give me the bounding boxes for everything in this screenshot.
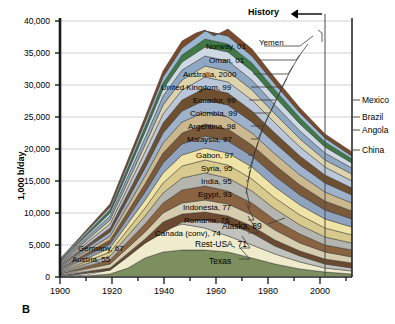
callout-label-oman: Oman, 01 bbox=[209, 56, 244, 65]
callout-label-colombia: Colombia, 99 bbox=[190, 109, 237, 118]
x-tick-label-1980: 1980 bbox=[248, 286, 288, 296]
stacked-area-chart bbox=[0, 0, 395, 324]
y-tick-label-15000: 15,000 bbox=[4, 176, 50, 186]
y-tick-label-20000: 20,000 bbox=[4, 144, 50, 154]
callout-label-china: China bbox=[362, 145, 384, 155]
inner-label-alaska: Alaska, 89 bbox=[222, 221, 262, 231]
callout-label-egypt: Egypt, 93 bbox=[198, 190, 232, 199]
inner-label-rest-usa: Rest-USA, 71 bbox=[195, 239, 247, 249]
inner-label-texas: Texas bbox=[209, 256, 231, 266]
x-tick-marks bbox=[60, 277, 346, 284]
x-tick-label-1940: 1940 bbox=[144, 286, 184, 296]
callout-label-malaysia: Malaysia, 97 bbox=[187, 135, 232, 144]
callout-label-canada: Canada (conv), 74 bbox=[155, 229, 221, 238]
x-tick-label-1920: 1920 bbox=[92, 286, 132, 296]
callout-label-gabon: Gabon, 97 bbox=[196, 151, 233, 160]
y-tick-label-10000: 10,000 bbox=[4, 208, 50, 218]
callout-label-yemen: Yemen bbox=[259, 38, 284, 47]
callout-label-argentina: Argentina, 98 bbox=[188, 122, 236, 131]
y-tick-label-0: 0 bbox=[4, 272, 50, 282]
callout-label-syria: Syria, 95 bbox=[201, 164, 233, 173]
y-tick-label-25000: 25,000 bbox=[4, 112, 50, 122]
y-tick-label-40000: 40,000 bbox=[4, 16, 50, 26]
callout-label-angola: Angola bbox=[362, 125, 388, 135]
x-tick-label-1960: 1960 bbox=[196, 286, 236, 296]
callout-label-norway: Norway, 01 bbox=[206, 42, 246, 51]
callout-label-united-kingdom: United Kingdom, 99 bbox=[161, 83, 231, 92]
callout-label-india: India, 95 bbox=[201, 177, 232, 186]
right-callout-leaders bbox=[352, 100, 360, 150]
callout-label-brazil: Brazil bbox=[362, 112, 383, 122]
history-annotation-label: History bbox=[248, 7, 279, 17]
figure-panel-b: 1,000 b/day 40,000 35,000 30,000 25,000 … bbox=[0, 0, 395, 324]
y-tick-label-30000: 30,000 bbox=[4, 80, 50, 90]
callout-label-ecuador: Ecuador, 99 bbox=[193, 96, 236, 105]
y-tick-label-5000: 5,000 bbox=[4, 240, 50, 250]
callout-label-mexico: Mexico bbox=[362, 95, 389, 105]
x-tick-label-2000: 2000 bbox=[300, 286, 340, 296]
x-tick-label-1900: 1900 bbox=[40, 286, 80, 296]
panel-letter: B bbox=[22, 303, 30, 315]
callout-label-indonesia: Indonesia, 77 bbox=[183, 203, 231, 212]
history-arrow-icon bbox=[292, 10, 322, 18]
callout-label-germany: Germany, 67 bbox=[78, 244, 124, 253]
callout-label-australia: Australia, 2000 bbox=[183, 70, 236, 79]
y-tick-label-35000: 35,000 bbox=[4, 48, 50, 58]
callout-label-austria: Austria, 55 bbox=[72, 255, 110, 264]
